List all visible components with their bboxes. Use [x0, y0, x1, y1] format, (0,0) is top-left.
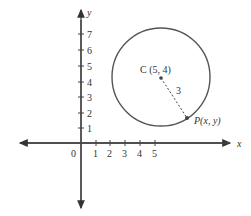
- point-p: [185, 116, 189, 120]
- y-tick-label: 1: [87, 123, 92, 134]
- center-label: C (5, 4): [140, 64, 171, 76]
- y-axis-label: y: [86, 7, 92, 18]
- x-tick-label: 3: [122, 148, 127, 159]
- origin-label: 0: [71, 148, 76, 159]
- coordinate-diagram: 1 2 3 4 5 0 1 2 3 4 5 6 7 x y C (5, 4) 3…: [0, 0, 251, 216]
- y-tick-label: 5: [87, 61, 92, 72]
- x-tick-label: 5: [152, 148, 157, 159]
- center-point: [159, 76, 163, 80]
- x-tick-label: 4: [137, 148, 142, 159]
- radius-label: 3: [176, 85, 181, 96]
- x-tick-label: 2: [107, 148, 112, 159]
- y-tick-label: 4: [87, 77, 92, 88]
- x-axis-label: x: [236, 138, 242, 149]
- y-tick-label: 7: [87, 29, 92, 40]
- x-tick-label: 1: [93, 148, 98, 159]
- y-tick-label: 6: [87, 45, 92, 56]
- y-tick-label: 3: [87, 92, 92, 103]
- y-tick-label: 2: [87, 108, 92, 119]
- point-label: P(x, y): [193, 115, 221, 127]
- radius-line: [161, 78, 187, 118]
